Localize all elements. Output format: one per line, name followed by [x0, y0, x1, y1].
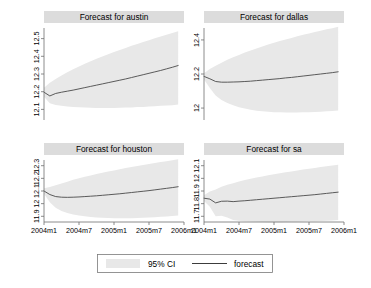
x-tick-label: 2005m1: [101, 226, 127, 235]
y-tick-label: 12.1: [32, 102, 41, 116]
y-tick-label: 12.3: [32, 67, 41, 81]
y-tick-label: 12.4: [192, 33, 201, 47]
panel-title: Forecast for dallas: [240, 12, 308, 22]
y-tick-label: 11.9: [32, 210, 41, 223]
y-tick-label: 12.5: [32, 32, 41, 46]
legend-ci-swatch: [106, 259, 140, 268]
x-tick-label: 2004m7: [66, 226, 92, 235]
x-tick-label: 2006m1: [331, 226, 357, 235]
y-tick-label: 12: [32, 200, 41, 208]
legend-forecast-label: forecast: [234, 259, 264, 269]
y-tick-label: 11.7: [192, 210, 201, 223]
y-tick-label: 12.2: [32, 85, 41, 99]
y-tick-label: 12: [192, 104, 201, 112]
panel-title: Forecast for austin: [80, 12, 149, 22]
y-tick-label: 12: [192, 174, 201, 182]
x-tick-label: 2005m1: [261, 226, 287, 235]
x-tick-label: 2004m1: [31, 226, 57, 235]
panel-title: Forecast for houston: [76, 144, 152, 154]
y-tick-label: 12.2: [192, 67, 201, 81]
forecast-figure: Forecast for austin12.112.212.312.412.5F…: [0, 0, 371, 288]
chart-legend: 95% CI forecast: [98, 255, 273, 273]
legend-ci-label: 95% CI: [148, 259, 175, 269]
y-tick-label: 12.4: [32, 49, 41, 63]
x-tick-label: 2004m1: [191, 226, 217, 235]
y-tick-label: 12.1: [192, 159, 201, 173]
x-tick-label: 2005m7: [296, 226, 322, 235]
x-tick-label: 2004m7: [226, 226, 252, 235]
y-tick-label: 11.8: [192, 197, 201, 210]
y-tick-label: 12.3: [32, 159, 41, 173]
x-tick-label: 2005m7: [136, 226, 162, 235]
y-tick-label: 11.9: [192, 184, 201, 197]
panel-title: Forecast for sa: [246, 144, 302, 154]
